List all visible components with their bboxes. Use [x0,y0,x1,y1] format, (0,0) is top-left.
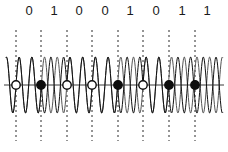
sample-marker-1-filled [37,81,45,89]
sample-marker-7-filled [191,81,199,89]
sample-marker-0-open [12,81,20,89]
sample-marker-3-open [88,81,96,89]
sample-marker-2-open [63,81,71,89]
psk-modulation-figure: 01001011 [0,0,228,152]
waveform-plot [0,0,228,152]
sample-marker-4-filled [114,81,122,89]
sample-marker-6-filled [165,81,173,89]
sample-marker-5-open [139,81,147,89]
